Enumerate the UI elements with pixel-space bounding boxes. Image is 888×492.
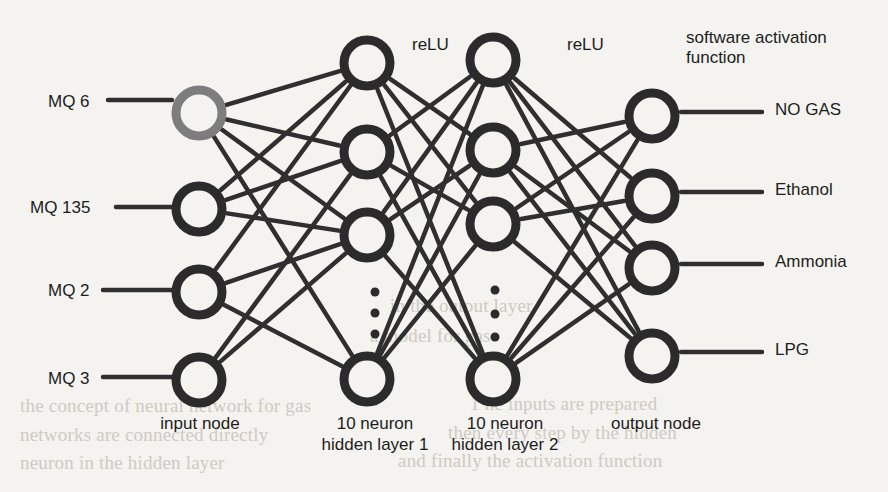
neuron-node-input-3[interactable] <box>176 357 222 403</box>
ellipsis-dot <box>371 309 380 318</box>
output-label-3: LPG <box>775 340 809 360</box>
neuron-node-input-2[interactable] <box>176 269 222 315</box>
output-label-0: NO GAS <box>775 100 841 120</box>
ellipsis-dot <box>371 330 380 339</box>
relu-hidden-1-label: reLU <box>412 35 449 55</box>
neuron-node-output-1[interactable] <box>629 173 675 219</box>
neural-network-figure: the concept of neural network for gas1 h… <box>0 0 888 492</box>
connection-edges <box>214 71 638 366</box>
input-label-1: MQ 135 <box>30 198 90 218</box>
softmax-note-label: software activation function <box>686 28 827 68</box>
neuron-node-hidden1-1[interactable] <box>344 129 390 175</box>
neuron-node-input-1[interactable] <box>176 186 222 232</box>
neuron-node-hidden2-2[interactable] <box>470 201 516 247</box>
neuron-node-output-0[interactable] <box>629 93 675 139</box>
input-layer-caption: input node <box>130 413 270 434</box>
neuron-node-hidden2-1[interactable] <box>470 127 516 173</box>
input-label-3: MQ 3 <box>48 369 90 389</box>
hidden-1-layer-caption: 10 neuron hidden layer 1 <box>300 413 450 455</box>
input-label-0: MQ 6 <box>48 92 90 112</box>
neuron-node-input-0[interactable] <box>176 90 222 136</box>
output-layer-caption: output node <box>586 413 726 434</box>
output-label-2: Ammonia <box>775 252 847 272</box>
hidden-2-layer-caption: 10 neuron hidden layer 2 <box>430 413 580 455</box>
neuron-node-output-2[interactable] <box>629 245 675 291</box>
neuron-node-hidden1-2[interactable] <box>344 212 390 258</box>
input-label-2: MQ 2 <box>48 281 90 301</box>
neuron-node-hidden2-3[interactable] <box>470 356 516 402</box>
relu-hidden-2-label: reLU <box>567 35 604 55</box>
neuron-node-hidden1-3[interactable] <box>344 356 390 402</box>
ellipsis-dot <box>491 310 500 319</box>
output-label-1: Ethanol <box>775 180 833 200</box>
ellipsis-dot <box>491 333 500 342</box>
neuron-node-hidden1-0[interactable] <box>344 40 390 86</box>
neuron-node-output-3[interactable] <box>629 333 675 379</box>
neuron-node-hidden2-0[interactable] <box>470 37 516 83</box>
ellipsis-dot <box>491 286 500 295</box>
ellipsis-dot <box>371 288 380 297</box>
